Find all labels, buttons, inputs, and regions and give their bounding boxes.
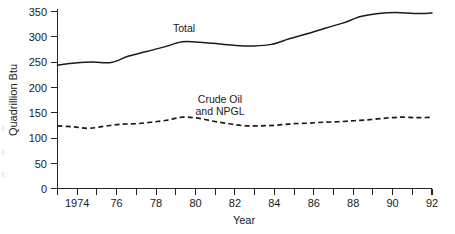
x-tick-label-76: 76 — [110, 197, 122, 209]
y-axis-title: Quadrillion Btu — [7, 64, 19, 136]
x-axis-title: Year — [233, 214, 256, 226]
series-line-total — [58, 13, 433, 66]
series-annotation-total: Total — [173, 22, 195, 34]
series-annotation-crude-line2: and NPGL — [195, 105, 244, 117]
x-tick-label-82: 82 — [229, 197, 241, 209]
x-tick-label-80: 80 — [189, 197, 201, 209]
y-tick-label-300: 300 — [29, 31, 47, 43]
y-tick-label-350: 350 — [29, 6, 47, 18]
y-tick-label-150: 150 — [29, 107, 47, 119]
series-annotation-crude-line1: Crude Oil — [198, 93, 242, 105]
x-tick-label-86: 86 — [308, 197, 320, 209]
x-tick-label-92: 92 — [426, 197, 438, 209]
x-axis: 1974 76 78 80 82 84 86 88 90 92 Year — [58, 189, 439, 227]
y-axis: 350 300 250 200 150 100 50 0 Quadrillion… — [7, 6, 58, 195]
y-tick-label-50: 50 — [35, 158, 47, 170]
y-tick-label-250: 250 — [29, 56, 47, 68]
y-tick-label-100: 100 — [29, 132, 47, 144]
series-line-crude-oil-npgl — [58, 117, 433, 128]
line-chart-canvas: 350 300 250 200 150 100 50 0 Quadrillion… — [0, 0, 455, 234]
x-tick-label-84: 84 — [268, 197, 280, 209]
x-tick-label-90: 90 — [386, 197, 398, 209]
x-tick-label-88: 88 — [347, 197, 359, 209]
x-tick-label-78: 78 — [150, 197, 162, 209]
x-tick-label-1974: 1974 — [65, 197, 89, 209]
plot-series — [58, 13, 433, 129]
y-tick-label-200: 200 — [29, 82, 47, 94]
y-tick-label-0: 0 — [41, 183, 47, 195]
chart-figure: 350 300 250 200 150 100 50 0 Quadrillion… — [0, 0, 455, 234]
scan-artifacts — [2, 126, 4, 177]
series-annotations: Total Crude Oil and NPGL — [173, 22, 245, 117]
